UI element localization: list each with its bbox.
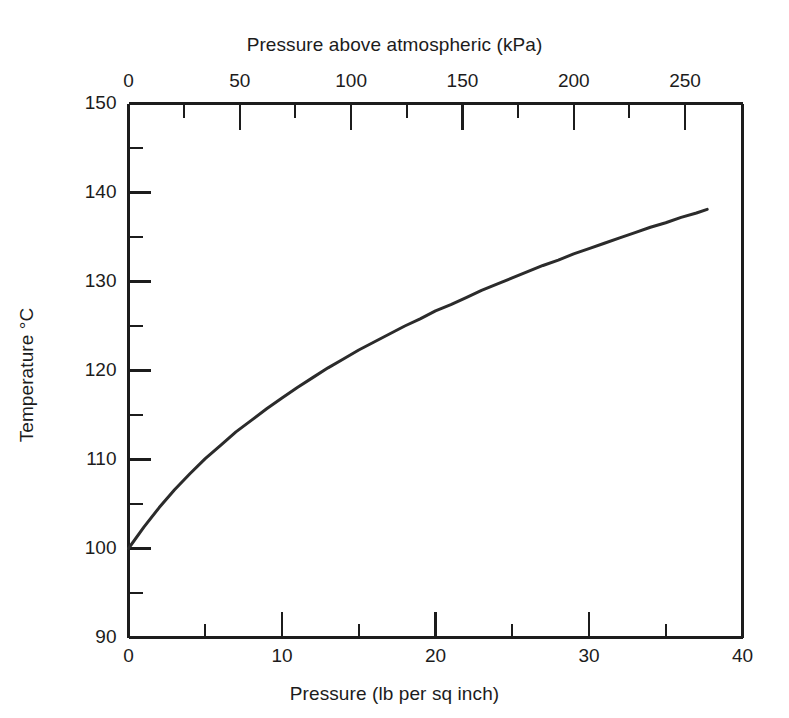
series-line	[129, 209, 708, 548]
data-series	[129, 209, 708, 548]
plot-frame	[129, 104, 743, 638]
axis-ticks	[129, 104, 686, 638]
chart-figure: Pressure above atmospheric (kPa) Pressur…	[0, 0, 789, 718]
plot-area	[0, 0, 789, 718]
